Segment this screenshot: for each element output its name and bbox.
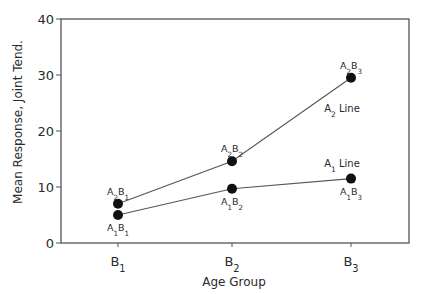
y-axis-ticks: 010203040 xyxy=(37,12,61,251)
y-axis-title: Mean Response, Joint Tend. xyxy=(11,40,25,204)
point-labels: A2B1A2B2A2B3A1B1A1B2A1B3 xyxy=(107,60,362,238)
x-tick-label: B2 xyxy=(224,254,239,274)
data-point xyxy=(227,184,237,194)
plot-border xyxy=(61,19,409,243)
line-chart: 010203040 B1B2B3 A2B1A2B2A2B3A1B1A1B2A1B… xyxy=(0,0,423,294)
plot-frame xyxy=(61,19,409,243)
x-axis-title: Age Group xyxy=(202,275,266,289)
y-tick-label: 20 xyxy=(37,124,54,139)
y-tick-label: 30 xyxy=(37,68,54,83)
point-label: A1B2 xyxy=(221,196,243,212)
x-tick-label: B1 xyxy=(110,254,125,274)
a1-line-label: A1 Line xyxy=(324,158,360,174)
point-label: A1B3 xyxy=(340,186,362,202)
y-tick-label: 10 xyxy=(37,180,54,195)
point-label: A1B1 xyxy=(107,222,129,238)
y-tick-label: 40 xyxy=(37,12,54,27)
a2-line-label: A2 Line xyxy=(324,103,360,119)
line-labels: A2 LineA1 Line xyxy=(324,103,360,174)
x-axis-ticks: B1B2B3 xyxy=(110,243,358,274)
data-point xyxy=(346,174,356,184)
data-point xyxy=(113,210,123,220)
y-tick-label: 0 xyxy=(46,236,54,251)
x-tick-label: B3 xyxy=(343,254,358,274)
